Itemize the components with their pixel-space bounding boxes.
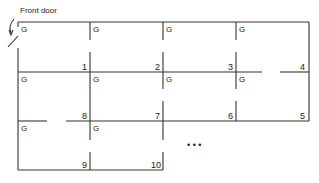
room-number-9: 9 bbox=[82, 160, 87, 170]
room-number-3: 3 bbox=[228, 62, 233, 72]
room-number-6: 6 bbox=[228, 111, 233, 121]
front-door-leaf bbox=[8, 36, 18, 47]
g-marker: G bbox=[93, 25, 99, 34]
door-swing-arrow-icon bbox=[10, 19, 14, 33]
g-marker: G bbox=[93, 75, 99, 84]
front-door-label: Front door bbox=[20, 6, 57, 15]
room-number-2: 2 bbox=[155, 62, 160, 72]
room-number-1: 1 bbox=[82, 62, 87, 72]
room-number-10: 10 bbox=[151, 160, 161, 170]
room-number-7: 7 bbox=[155, 111, 160, 121]
g-marker: G bbox=[21, 75, 27, 84]
g-marker: G bbox=[239, 75, 245, 84]
g-marker: G bbox=[21, 25, 27, 34]
g-marker: G bbox=[93, 124, 99, 133]
room-number-4: 4 bbox=[300, 62, 305, 72]
g-marker: G bbox=[166, 75, 172, 84]
g-marker: G bbox=[21, 124, 27, 133]
room-number-8: 8 bbox=[82, 111, 87, 121]
g-marker: G bbox=[166, 25, 172, 34]
floor-plan-diagram: Front door G G G G G G G G G G 1 2 3 4 5… bbox=[0, 0, 319, 183]
continuation-ellipsis: • • • bbox=[187, 140, 201, 150]
g-marker: G bbox=[239, 25, 245, 34]
room-number-5: 5 bbox=[300, 111, 305, 121]
